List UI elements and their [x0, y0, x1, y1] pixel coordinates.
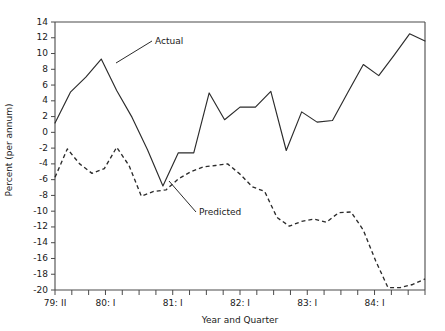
series-label-predicted: Predicted: [199, 207, 241, 217]
y-tick-label: 8: [42, 64, 48, 74]
x-tick-label: 79: II: [44, 298, 67, 308]
x-tick-label: 81: I: [163, 298, 183, 308]
y-tick-label: -20: [33, 285, 48, 295]
y-tick-label: 2: [42, 111, 48, 121]
y-axis-ticks: 14121086420-2-4-6-8-10-12-14-16-18-20: [33, 17, 55, 295]
y-axis-title: Percent (per annum): [4, 104, 14, 197]
x-axis-title: Year and Quarter: [201, 315, 279, 325]
annotation-leader-actual: [116, 41, 152, 63]
series-line-actual: [55, 34, 425, 186]
y-tick-label: -4: [39, 158, 48, 168]
y-tick-label: 4: [42, 95, 48, 105]
y-tick-label: 14: [37, 17, 49, 27]
y-tick-label: -18: [33, 269, 48, 279]
annotation-leader-predicted: [169, 181, 196, 212]
y-tick-label: -10: [33, 206, 48, 216]
y-tick-label: -16: [33, 253, 48, 263]
x-tick-label: 84: I: [365, 298, 385, 308]
series-label-actual: Actual: [155, 36, 183, 46]
series-line-predicted: [55, 147, 425, 287]
y-tick-label: 10: [37, 48, 49, 58]
x-tick-label: 80: I: [95, 298, 115, 308]
y-tick-label: -8: [39, 190, 48, 200]
x-tick-label: 82: I: [230, 298, 250, 308]
y-tick-label: -14: [33, 237, 48, 247]
y-tick-label: 0: [42, 127, 48, 137]
y-tick-label: 12: [37, 32, 48, 42]
y-tick-label: -2: [39, 143, 48, 153]
chart-container: 14121086420-2-4-6-8-10-12-14-16-18-20 79…: [0, 0, 445, 331]
y-tick-label: -12: [33, 221, 48, 231]
x-axis-ticks: 79: II80: I81: I82: I83: I84: I: [44, 290, 425, 308]
y-tick-label: 6: [42, 80, 48, 90]
y-tick-label: -6: [39, 174, 48, 184]
x-tick-label: 83: I: [297, 298, 317, 308]
line-chart: 14121086420-2-4-6-8-10-12-14-16-18-20 79…: [0, 0, 445, 331]
